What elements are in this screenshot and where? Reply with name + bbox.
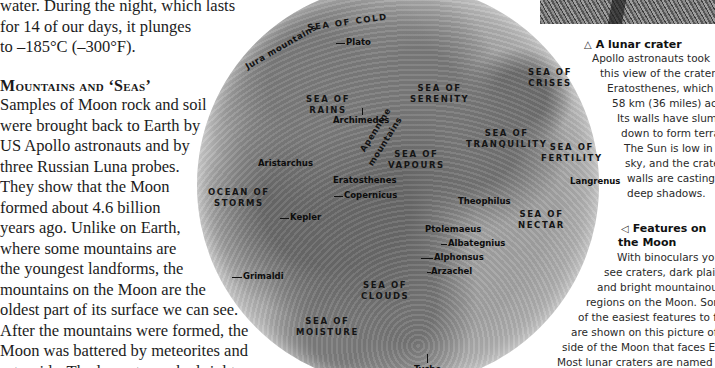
label-sea-of-rains: SEA OF RAINS bbox=[306, 94, 350, 116]
caption-line: Eratosthenes, which is bbox=[607, 81, 715, 96]
label-line: CLOUDS bbox=[361, 291, 409, 302]
caption-title-text: Features on bbox=[633, 222, 707, 235]
label-langrenus: Langrenus bbox=[570, 176, 620, 186]
caption-line: of the easiest features to find bbox=[578, 310, 715, 325]
label-line: SEA OF bbox=[296, 316, 359, 327]
label-alphonsus: Alphonsus bbox=[434, 252, 484, 262]
label-line: TRANQUILITY bbox=[466, 139, 547, 150]
label-sea-of-nectar: SEA OF NECTAR bbox=[518, 209, 565, 231]
label-line: SEA OF bbox=[518, 209, 565, 220]
label-line: NECTAR bbox=[518, 220, 565, 231]
label-line: FERTILITY bbox=[541, 153, 603, 164]
leader-line bbox=[427, 354, 428, 363]
label-arzachel: Arzachel bbox=[431, 266, 472, 276]
triangle-left-icon: ◁ bbox=[621, 223, 629, 234]
caption-line: sky, and the crater bbox=[625, 156, 715, 171]
label-line: SEA OF bbox=[410, 83, 469, 94]
caption-line: Apollo astronauts took bbox=[592, 51, 710, 66]
caption-line: With binoculars you can bbox=[617, 250, 715, 265]
label-line: VAPOURS bbox=[388, 160, 445, 171]
text-line: mountains on the Moon are the bbox=[0, 280, 260, 301]
label-sea-of-serenity: SEA OF SERENITY bbox=[410, 83, 469, 105]
label-ocean-of-storms: OCEAN OF STORMS bbox=[208, 187, 270, 209]
caption-line: are shown on this picture of the bbox=[571, 325, 715, 340]
text-line: After the mountains were formed, the bbox=[0, 321, 260, 342]
text-line: oldest part of its surface we can see. bbox=[0, 300, 260, 321]
label-aristarchus: Aristarchus bbox=[258, 158, 313, 168]
label-kepler: Kepler bbox=[290, 212, 321, 222]
leader-line bbox=[232, 277, 242, 278]
label-line: CRISES bbox=[528, 78, 572, 89]
leader-line bbox=[362, 108, 363, 115]
label-line: SEA OF bbox=[466, 128, 547, 139]
label-tycho: Tycho bbox=[414, 364, 441, 368]
leader-line bbox=[336, 43, 345, 44]
caption-line: down to form terraces. bbox=[621, 126, 715, 141]
features-caption-title-line2: the Moon bbox=[618, 236, 676, 249]
label-sea-of-fertility: SEA OF FERTILITY bbox=[541, 142, 603, 164]
leader-line bbox=[334, 196, 343, 197]
text-line: to –185°C (–300°F). bbox=[0, 37, 260, 58]
label-theophilus: Theophilus bbox=[458, 196, 511, 206]
caption-line: Most lunar craters are named for bbox=[557, 355, 715, 368]
caption-line: regions on the Moon. Some bbox=[586, 295, 715, 310]
label-line: STORMS bbox=[208, 198, 270, 209]
label-archimedes: Archimedes bbox=[333, 115, 389, 125]
label-grimaldi: Grimaldi bbox=[243, 271, 284, 281]
label-line: SEA OF bbox=[361, 280, 409, 291]
label-sea-of-moisture: SEA OF MOISTURE bbox=[296, 316, 359, 338]
label-line: SEA OF bbox=[528, 67, 572, 78]
label-line: MOISTURE bbox=[296, 327, 359, 338]
label-sea-of-crises: SEA OF CRISES bbox=[528, 67, 572, 89]
label-line: SERENITY bbox=[410, 94, 469, 105]
label-sea-of-tranquility: SEA OF TRANQUILITY bbox=[466, 128, 547, 150]
label-albategnius: Albategnius bbox=[448, 238, 505, 248]
label-line: SEA OF bbox=[306, 94, 350, 105]
text-line: asteroids. The largest punched right bbox=[0, 362, 260, 368]
label-ptolemaeus: Ptolemaeus bbox=[425, 224, 481, 234]
label-eratosthenes: Eratosthenes bbox=[333, 175, 396, 185]
text-line: for 14 of our days, it plunges bbox=[0, 17, 260, 38]
caption-title-text: A lunar crater bbox=[596, 38, 682, 51]
leader-line bbox=[427, 272, 431, 273]
crater-caption-title: △A lunar crater bbox=[584, 38, 682, 51]
caption-line: deep shadows. bbox=[627, 186, 706, 201]
caption-line: side of the Moon that faces Earth. bbox=[562, 340, 715, 355]
label-sea-of-vapours: SEA OF VAPOURS bbox=[388, 149, 445, 171]
text-line: Moon was battered by meteorites and bbox=[0, 341, 260, 362]
caption-line: this view of the crater bbox=[600, 66, 715, 81]
triangle-up-icon: △ bbox=[584, 39, 592, 50]
leader-line bbox=[421, 258, 433, 259]
label-sea-of-clouds: SEA OF CLOUDS bbox=[361, 280, 409, 302]
label-line: OCEAN OF bbox=[208, 187, 270, 198]
leader-line bbox=[441, 244, 447, 245]
caption-line: see craters, dark plains bbox=[604, 265, 715, 280]
section-heading: Mountains and ‘Seas’ bbox=[0, 77, 151, 95]
intro-paragraph: water. During the night, which lasts for… bbox=[0, 0, 260, 58]
text-line: water. During the night, which lasts bbox=[0, 0, 260, 17]
label-line: SEA OF bbox=[388, 149, 445, 160]
label-line: SEA OF bbox=[541, 142, 603, 153]
crater-photo bbox=[540, 0, 715, 24]
caption-line: and bright mountainous bbox=[597, 280, 715, 295]
caption-line: Its walls have slumped bbox=[617, 111, 715, 126]
label-plato: Plato bbox=[346, 37, 371, 47]
leader-line bbox=[280, 218, 289, 219]
caption-line: walls are casting long bbox=[627, 171, 715, 186]
features-caption-title: ◁Features on bbox=[621, 222, 706, 235]
caption-line: The Sun is low in the bbox=[624, 141, 715, 156]
label-copernicus: Copernicus bbox=[344, 190, 397, 200]
caption-line: 58 km (36 miles) across. bbox=[612, 96, 715, 111]
